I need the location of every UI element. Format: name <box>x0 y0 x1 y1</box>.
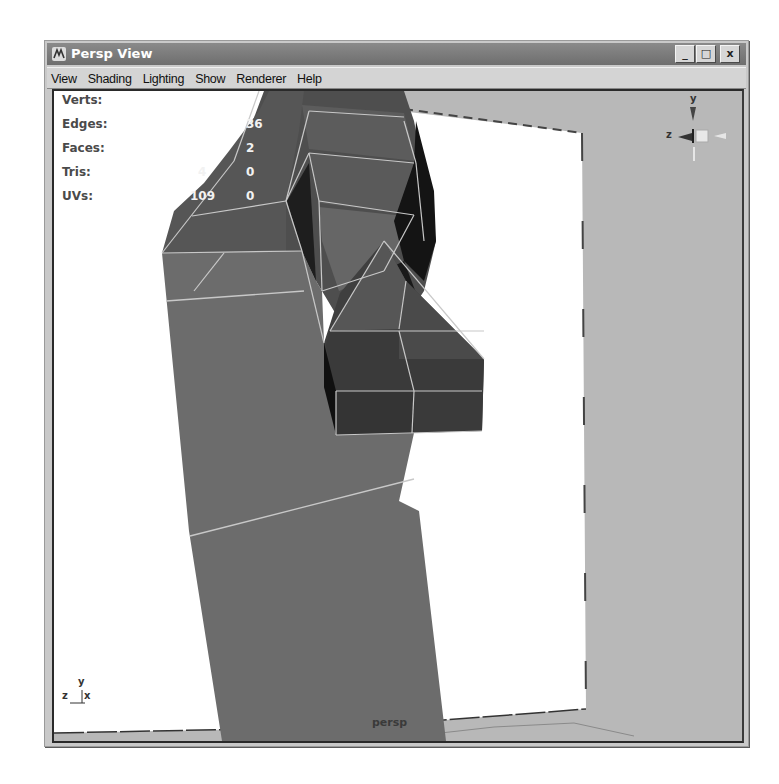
window-controls: _ □ x <box>674 45 740 63</box>
hud-value: 109 <box>190 189 215 203</box>
hud-label: UVs: <box>62 189 93 203</box>
window-title: Persp View <box>71 46 152 61</box>
hud-row-tris: Tris: 4 0 <box>62 165 282 181</box>
camera-name-label: persp <box>372 716 407 729</box>
app-icon <box>51 46 67 62</box>
menu-shading[interactable]: Shading <box>85 69 135 86</box>
title-bar[interactable]: Persp View _ □ x <box>47 43 746 65</box>
menu-lighting[interactable]: Lighting <box>140 69 187 86</box>
hud-value: 36 <box>246 117 263 131</box>
hud-row-verts: Verts: <box>62 93 282 109</box>
3d-viewport[interactable]: Verts: Edges: 36 Faces: 2 Tris: 4 0 UVs: <box>52 89 744 743</box>
hud-label: Tris: <box>62 165 91 179</box>
hud-label: Edges: <box>62 117 107 131</box>
hud-label: Verts: <box>62 93 102 107</box>
hud-row-uvs: UVs: 109 0 <box>62 189 282 205</box>
axis-gizmo: y z x <box>60 676 100 716</box>
menu-help[interactable]: Help <box>294 69 325 86</box>
hud-value: 2 <box>246 141 254 155</box>
menu-view[interactable]: View <box>47 69 80 86</box>
hud-value: 0 <box>246 165 254 179</box>
axis-lines-icon <box>60 676 100 716</box>
maximize-button[interactable]: □ <box>696 45 716 63</box>
menu-bar: View Shading Lighting Show Renderer Help <box>47 67 746 89</box>
menu-renderer[interactable]: Renderer <box>233 69 289 86</box>
hud-value: 0 <box>246 189 254 203</box>
persp-view-window: Persp View _ □ x View Shading Lighting S… <box>44 40 749 747</box>
view-cube[interactable]: y z <box>674 91 734 181</box>
hud-row-faces: Faces: 2 <box>62 141 282 157</box>
menu-show[interactable]: Show <box>192 69 228 86</box>
viewcube-arrows-icon <box>666 91 736 181</box>
close-button[interactable]: x <box>720 45 740 63</box>
hud-row-edges: Edges: 36 <box>62 117 282 133</box>
hud-label: Faces: <box>62 141 105 155</box>
minimize-button[interactable]: _ <box>675 45 695 63</box>
hud-value: 4 <box>198 165 206 179</box>
